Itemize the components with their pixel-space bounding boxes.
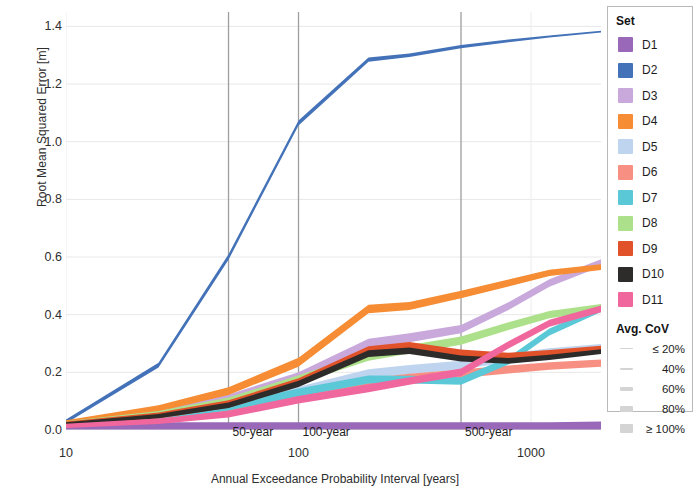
legend-item-label: D11: [642, 293, 663, 307]
legend-cov-bar: [620, 348, 633, 349]
x-axis-title: Annual Exceedance Probability Interval […: [55, 472, 615, 486]
y-tick-label: 0.2: [16, 365, 62, 379]
legend-cov-item-4[interactable]: ≥ 100%: [615, 419, 692, 439]
legend-item-label: D2: [642, 63, 657, 77]
legend-item-d10[interactable]: D10: [615, 262, 692, 288]
legend-item-label: D10: [642, 267, 664, 281]
legend-color-swatch: [618, 292, 633, 307]
reference-line-label: 100-year: [303, 425, 350, 439]
y-tick-label: 1.4: [16, 19, 62, 33]
legend-item-label: D9: [642, 242, 657, 256]
legend-cov-bar: [620, 387, 633, 391]
legend-item-d7[interactable]: D7: [615, 185, 692, 211]
legend-cov-item-1[interactable]: 40%: [615, 359, 692, 379]
legend-cov-item-3[interactable]: 80%: [615, 399, 692, 419]
legend-color-swatch: [618, 216, 633, 231]
legend-cov-item-0[interactable]: ≤ 20%: [615, 339, 692, 359]
legend-item-d5[interactable]: D5: [615, 134, 692, 160]
legend-color-swatch: [618, 190, 633, 205]
legend-item-d2[interactable]: D2: [615, 58, 692, 84]
legend-color-swatch: [618, 165, 633, 180]
x-tick-label: 1000: [517, 446, 545, 460]
legend-color-swatch: [618, 267, 633, 282]
legend-item-label: D8: [642, 216, 657, 230]
legend-item-label: D6: [642, 165, 657, 179]
legend-color-swatch: [618, 88, 633, 103]
legend-color-swatch: [618, 37, 633, 52]
legend-cov-bar: [620, 368, 633, 370]
reference-line-label: 500-year: [465, 425, 512, 439]
legend-set-items: D1D2D3D4D5D6D7D8D9D10D11: [615, 32, 692, 313]
legend-cov-label: 80%: [634, 403, 692, 415]
legend-cov-thickness-mark: [618, 424, 634, 433]
legend-item-d11[interactable]: D11: [615, 287, 692, 313]
reference-line-label: 50-year: [233, 425, 274, 439]
legend-color-swatch: [618, 241, 633, 256]
legend-cov-bar: [620, 424, 633, 433]
legend-item-label: D4: [642, 114, 657, 128]
legend-item-d1[interactable]: D1: [615, 32, 692, 58]
legend-item-label: D1: [642, 38, 657, 52]
y-tick-label: 0.4: [16, 308, 62, 322]
legend-set-title: Set: [616, 14, 692, 28]
chart-root: Root Mean Squared Error [m] 0.00.20.40.6…: [0, 0, 697, 496]
legend-item-d9[interactable]: D9: [615, 236, 692, 262]
y-tick-label: 0.6: [16, 250, 62, 264]
legend-item-label: D7: [642, 191, 657, 205]
y-tick-label: 1.0: [16, 135, 62, 149]
series-ribbon-D4: [66, 264, 601, 424]
legend-item-d3[interactable]: D3: [615, 83, 692, 109]
legend-cov-items: ≤ 20%40%60%80%≥ 100%: [615, 339, 692, 439]
legend-cov-thickness-mark: [618, 387, 634, 391]
x-tick-label: 10: [59, 446, 73, 460]
legend-cov-label: ≤ 20%: [634, 343, 692, 355]
legend-item-d6[interactable]: D6: [615, 160, 692, 186]
legend-cov-thickness-mark: [618, 348, 634, 349]
legend-cov-label: 40%: [634, 363, 692, 375]
y-tick-label: 0.8: [16, 192, 62, 206]
y-tick-label: 1.2: [16, 77, 62, 91]
legend-item-label: D5: [642, 140, 657, 154]
legend-cov-label: 60%: [634, 383, 692, 395]
legend-cov-bar: [620, 406, 633, 412]
legend-color-swatch: [618, 139, 633, 154]
y-axis-tick-labels: 0.00.20.40.60.81.01.21.4: [0, 0, 62, 496]
plot-area: [66, 12, 601, 430]
legend-cov-label: ≥ 100%: [634, 423, 692, 435]
legend-cov-thickness-mark: [618, 406, 634, 412]
x-tick-label: 100: [288, 446, 309, 460]
legend-panel: Set D1D2D3D4D5D6D7D8D9D10D11 Avg. CoV ≤ …: [607, 6, 693, 412]
y-tick-label: 0.0: [16, 423, 62, 437]
legend-color-swatch: [618, 114, 633, 129]
legend-item-d4[interactable]: D4: [615, 109, 692, 135]
legend-item-label: D3: [642, 89, 657, 103]
legend-color-swatch: [618, 63, 633, 78]
legend-item-d8[interactable]: D8: [615, 211, 692, 237]
legend-cov-title: Avg. CoV: [616, 322, 692, 336]
legend-cov-item-2[interactable]: 60%: [615, 379, 692, 399]
legend-cov-thickness-mark: [618, 368, 634, 370]
series-ribbon-D3: [66, 259, 601, 425]
